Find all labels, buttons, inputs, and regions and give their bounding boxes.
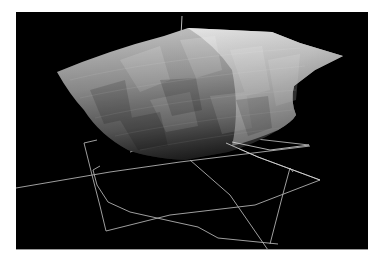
3d-scene bbox=[0, 0, 381, 264]
shaded-surface bbox=[57, 28, 343, 160]
